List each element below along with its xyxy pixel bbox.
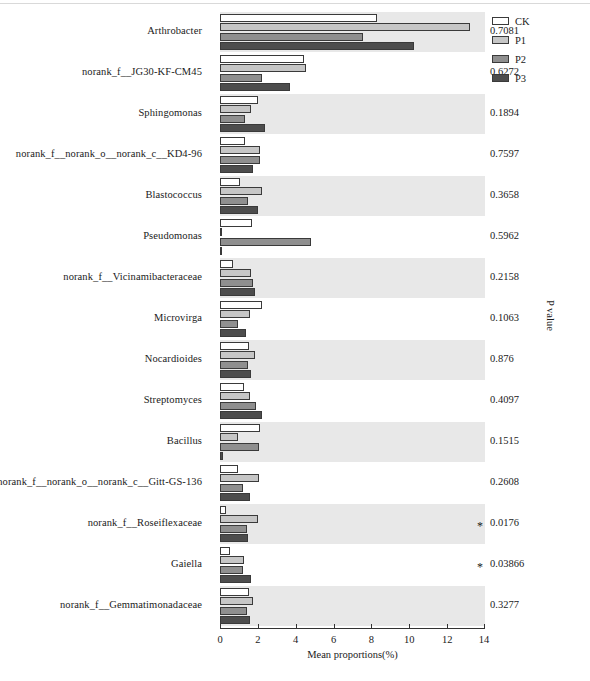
bar-p3 — [220, 493, 250, 501]
category-label: Sphingomonas — [138, 107, 202, 119]
category-label: norank_f__norank_o__norank_c__Gitt-GS-13… — [0, 476, 202, 488]
p-value: 0.1515 — [490, 435, 519, 446]
bar-p1 — [220, 146, 260, 154]
category-row — [220, 176, 485, 216]
category-label: Gaiella — [171, 558, 202, 570]
bar-p1 — [220, 515, 258, 523]
bar-p2 — [220, 197, 248, 205]
bar-p3 — [220, 370, 251, 378]
bar-ck — [220, 301, 262, 309]
p-value: 0.1894 — [490, 107, 519, 118]
category-row — [220, 340, 485, 380]
p-value: 0.3658 — [490, 189, 519, 200]
legend-swatch-p2 — [492, 55, 509, 63]
bar-p3 — [220, 616, 250, 624]
bar-p2 — [220, 74, 262, 82]
bar-p1 — [220, 474, 259, 482]
x-axis-tick — [258, 624, 259, 628]
bar-p1 — [220, 269, 251, 277]
x-axis-tick-label: 14 — [479, 634, 490, 645]
legend-label: P2 — [515, 54, 526, 65]
bar-p3 — [220, 124, 265, 132]
x-axis-tick — [334, 624, 335, 628]
bar-ck — [220, 588, 249, 596]
category-label: Microvirga — [154, 312, 202, 324]
bar-p2 — [220, 607, 247, 615]
category-row — [220, 463, 485, 503]
bar-p2 — [220, 33, 363, 41]
bar-p1 — [220, 187, 262, 195]
legend-item-p3[interactable]: P3 — [492, 70, 530, 86]
category-row — [220, 258, 485, 298]
x-axis-tick — [371, 624, 372, 628]
legend-swatch-p1 — [492, 36, 509, 44]
bar-p2 — [220, 361, 248, 369]
x-axis-tick-label: 4 — [293, 634, 298, 645]
bar-ck — [220, 465, 238, 473]
bar-p3 — [220, 206, 258, 214]
p-value: 0.2608 — [490, 476, 519, 487]
category-label: Arthrobacter — [147, 25, 202, 37]
bar-ck — [220, 178, 240, 186]
bar-p1 — [220, 228, 222, 236]
significance-asterisk: * — [477, 520, 483, 532]
bar-ck — [220, 14, 377, 22]
category-row — [220, 545, 485, 585]
bar-ck — [220, 96, 258, 104]
p-value: 0.3277 — [490, 599, 519, 610]
x-axis-tick — [220, 624, 221, 628]
bar-p2 — [220, 443, 259, 451]
bar-p1 — [220, 310, 250, 318]
bar-p1 — [220, 64, 306, 72]
bar-ck — [220, 137, 245, 145]
x-axis-tick-label: 8 — [369, 634, 374, 645]
category-label: Nocardioides — [145, 353, 202, 365]
p-value: 0.4097 — [490, 394, 519, 405]
bar-ck — [220, 547, 230, 555]
top-rule — [0, 3, 590, 4]
bar-ck — [220, 219, 252, 227]
x-axis-tick — [409, 624, 410, 628]
bar-p3 — [220, 329, 246, 337]
bar-p2 — [220, 115, 245, 123]
p-value: 0.7597 — [490, 148, 519, 159]
bar-p2 — [220, 484, 243, 492]
bar-ck — [220, 424, 260, 432]
bar-p1 — [220, 392, 250, 400]
bar-p2 — [220, 279, 253, 287]
legend: CKP1P2P3 — [492, 13, 530, 89]
bar-p1 — [220, 556, 244, 564]
bar-p1 — [220, 105, 251, 113]
category-label: norank_f__norank_o__norank_c__KD4-96 — [16, 148, 202, 160]
bar-p3 — [220, 411, 262, 419]
p-value: 0.5962 — [490, 230, 519, 241]
bar-p3 — [220, 42, 414, 50]
p-value: 0.03866 — [490, 558, 524, 569]
category-row — [220, 586, 485, 626]
category-label: norank_f__JG30-KF-CM45 — [82, 66, 202, 78]
bar-p2 — [220, 525, 247, 533]
bar-p1 — [220, 351, 255, 359]
x-axis-tick — [296, 624, 297, 628]
p-value-axis-title: P value — [545, 300, 556, 331]
legend-item-p1[interactable]: P1 — [492, 32, 530, 48]
p-value: 0.2158 — [490, 271, 519, 282]
p-value: 0.876 — [490, 353, 514, 364]
category-label: Pseudomonas — [143, 230, 202, 242]
bar-p1 — [220, 433, 238, 441]
p-value: 0.1063 — [490, 312, 519, 323]
bar-p3 — [220, 575, 251, 583]
x-axis-tick-label: 6 — [331, 634, 336, 645]
legend-label: P1 — [515, 35, 526, 46]
bar-ck — [220, 506, 226, 514]
legend-swatch-p3 — [492, 74, 509, 82]
legend-item-ck[interactable]: CK — [492, 13, 530, 29]
bar-p3 — [220, 452, 223, 460]
bar-ck — [220, 383, 244, 391]
bar-p3 — [220, 534, 248, 542]
category-label: Bacillus — [167, 435, 202, 447]
p-value: 0.0176 — [490, 517, 519, 528]
bar-p2 — [220, 320, 238, 328]
legend-item-p2[interactable]: P2 — [492, 51, 530, 67]
bar-ck — [220, 55, 304, 63]
